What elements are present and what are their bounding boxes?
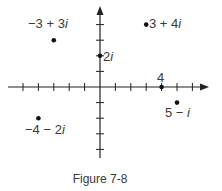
figure-caption: Figure 7-8	[0, 172, 200, 186]
real-axis-arrow-icon	[200, 84, 209, 91]
label-p6: −4 − 2i	[25, 122, 66, 137]
point-p3	[98, 54, 103, 59]
imaginary-axis-arrow-icon	[97, 6, 104, 15]
complex-plane: −3 + 3i 3 + 4i 2i 4 5 − i −4 − 2i	[0, 0, 222, 191]
point-p4	[159, 85, 164, 90]
label-p2: 3 + 4i	[149, 16, 182, 31]
label-p3: 2i	[103, 49, 114, 64]
point-p1	[52, 38, 57, 43]
label-p4: 4	[157, 70, 164, 85]
label-p1: −3 + 3i	[28, 16, 69, 31]
point-p2	[144, 22, 149, 27]
label-p5: 5 − i	[165, 105, 191, 120]
point-p6	[36, 116, 41, 121]
